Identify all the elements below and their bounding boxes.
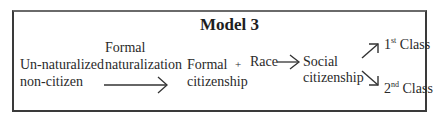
node-first-class: 1st Class <box>384 37 430 53</box>
edge-label-formal-line2: naturalization <box>105 57 182 73</box>
node-unnaturalized-line2: non-citizen <box>20 74 83 90</box>
arrow-down-right-icon <box>361 70 381 88</box>
long-arrow-right-icon <box>102 75 172 95</box>
second-class-label: Class <box>399 81 433 96</box>
second-class-superscript: nd <box>391 80 399 89</box>
plus-sign: + <box>235 56 241 72</box>
arrow-up-right-icon <box>361 42 381 60</box>
node-social-citizenship-line1: Social <box>303 54 338 70</box>
edge-label-formal-line1: Formal <box>105 40 145 56</box>
node-race: Race <box>250 54 278 70</box>
first-class-label: Class <box>396 37 430 52</box>
node-social-citizenship-line2: citizenship <box>303 70 364 86</box>
node-second-class: 2nd Class <box>384 81 433 97</box>
diagram-title: Model 3 <box>200 15 259 35</box>
second-class-number: 2 <box>384 81 391 96</box>
node-unnaturalized-line1: Un-naturalized <box>20 57 104 73</box>
first-class-number: 1 <box>384 37 391 52</box>
node-formal-citizenship-line1: Formal <box>187 57 227 73</box>
node-formal-citizenship-line2: citizenship <box>187 74 248 90</box>
arrow-right-icon <box>276 54 302 72</box>
